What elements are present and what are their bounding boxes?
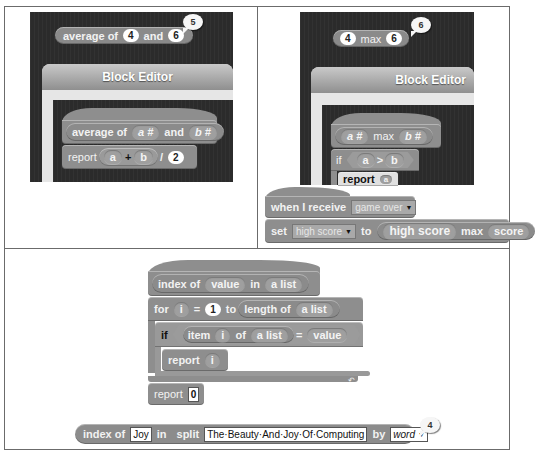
param-a[interactable]: a # (341, 129, 368, 143)
when-i-receive-label: when I receive (269, 201, 348, 213)
result-value: 5 (190, 17, 195, 27)
result-bubble: 4 (420, 417, 440, 433)
custom-block-prototype[interactable]: average of a # and b # (66, 123, 224, 141)
result-value: 6 (418, 20, 423, 30)
if-block[interactable]: if a > b (331, 149, 419, 171)
final-report-block[interactable]: report 0 (148, 383, 204, 405)
message-value: game over (355, 202, 402, 213)
max-label: max (459, 225, 485, 237)
prototype-conj: and (162, 126, 186, 138)
in-label: in (248, 278, 262, 290)
arg2-slot[interactable]: 6 (386, 32, 402, 45)
prototype-block[interactable]: average of a # and b # (62, 120, 217, 144)
by-label: by (370, 428, 387, 440)
dropdown-arrow-icon: ▼ (345, 228, 352, 235)
result-bubble: 5 (183, 14, 203, 30)
prototype-block[interactable]: a # max b # (331, 124, 441, 148)
var-b[interactable]: b (134, 150, 153, 164)
item-label: item (186, 329, 213, 341)
for-keyword: for (152, 303, 171, 315)
high-score-var[interactable]: high score (383, 223, 456, 239)
var-b[interactable]: b (385, 153, 404, 167)
score-var[interactable]: score (488, 224, 529, 238)
length-of-reporter[interactable]: length of a list (238, 300, 340, 318)
split-label: split (175, 428, 202, 440)
split-text-slot[interactable]: The·Beauty·And·Joy·Of·Computing (204, 427, 367, 442)
value-var[interactable]: value (307, 328, 347, 342)
var-a[interactable]: a (104, 150, 122, 164)
prototype-op: max (371, 130, 396, 142)
definition-prototype-block[interactable]: index of value in a list (148, 271, 320, 296)
arg2-slot[interactable]: 6 (168, 29, 184, 42)
search-value-slot[interactable]: Joy (130, 427, 152, 442)
var-a[interactable]: a (357, 153, 375, 167)
if-keyword: if (334, 154, 344, 166)
if-c-arm (331, 171, 337, 185)
max-reporter[interactable]: high score max score (377, 222, 535, 240)
loop-var-i[interactable]: i (174, 302, 189, 316)
max-label: max (359, 33, 384, 45)
sum-reporter[interactable]: a + b (99, 148, 158, 166)
custom-block-prototype[interactable]: a # max b # (335, 127, 433, 145)
var-a[interactable]: a (380, 175, 392, 184)
start-slot[interactable]: 1 (205, 303, 221, 316)
greater-than-predicate[interactable]: a > b (347, 152, 414, 168)
var-i[interactable]: i (205, 353, 220, 367)
report-keyword: report (66, 151, 99, 163)
for-c-arm (148, 321, 155, 373)
param-value[interactable]: value (205, 277, 245, 291)
equals-label: = (192, 303, 202, 315)
gt-operator: > (377, 154, 383, 166)
block-label: average of (61, 30, 120, 42)
if-block[interactable]: if item i of a list = value (155, 322, 363, 347)
average-block[interactable]: average of 4 and 6 (55, 27, 193, 44)
vertical-divider (257, 6, 258, 248)
max-block[interactable]: 4 max 6 (333, 30, 409, 47)
prototype-label: index of (156, 278, 202, 290)
conj-label: and (142, 30, 166, 42)
inner-report-block[interactable]: report i (162, 349, 228, 371)
param-b[interactable]: b # (399, 129, 427, 143)
arg1-slot[interactable]: 4 (123, 29, 139, 42)
for-loop-block[interactable]: for i = 1 to length of a list (148, 297, 363, 321)
block-editor-title: Block Editor (311, 67, 474, 93)
in-label: in (155, 428, 169, 440)
report-keyword: report (341, 173, 377, 185)
prototype-label: average of (70, 126, 129, 138)
set-keyword: set (269, 225, 289, 237)
custom-block-prototype[interactable]: index of value in a list (152, 274, 309, 293)
index-of-call-block[interactable]: index of Joy in split The·Beauty·And·Joy… (75, 424, 415, 444)
for-bottom (148, 376, 358, 382)
report-block[interactable]: report a + b / 2 (62, 145, 197, 169)
variable-value: high score (296, 226, 342, 237)
index-of-label: index of (81, 428, 127, 440)
param-a-list[interactable]: a list (265, 277, 302, 291)
a-list-var[interactable]: a list (251, 328, 288, 342)
variable-dropdown[interactable]: high score ▼ (292, 224, 356, 239)
arg1-slot[interactable]: 4 (340, 32, 356, 45)
item-of-reporter[interactable]: item i of a list (183, 326, 294, 343)
when-i-receive-block[interactable]: when I receive game over ▼ (265, 196, 415, 218)
to-label: to (224, 303, 238, 315)
of-label: of (233, 329, 247, 341)
divisor-slot[interactable]: 2 (168, 151, 184, 164)
if-keyword: if (159, 329, 170, 341)
to-keyword: to (359, 225, 373, 237)
report-keyword: report (166, 354, 202, 366)
index-var-i[interactable]: i (215, 328, 230, 342)
param-b[interactable]: b # (189, 125, 217, 139)
length-of-label: length of (242, 303, 292, 315)
param-a[interactable]: a # (132, 125, 159, 139)
result-bubble: 6 (411, 17, 431, 33)
divide-operator: / (158, 151, 165, 163)
message-dropdown[interactable]: game over ▼ (351, 200, 416, 215)
zero-slot[interactable]: 0 (188, 387, 200, 402)
loop-arrow-icon: ↶ (348, 376, 355, 385)
block-editor-title: Block Editor (42, 64, 233, 90)
if-c-arm (155, 347, 161, 371)
dropdown-arrow-icon: ▼ (405, 204, 412, 211)
set-variable-block[interactable]: set high score ▼ to high score max score (265, 219, 509, 243)
a-list-var[interactable]: a list (296, 302, 333, 316)
report-block[interactable]: report a (338, 172, 398, 186)
equals-predicate[interactable]: item i of a list = value (173, 325, 361, 344)
